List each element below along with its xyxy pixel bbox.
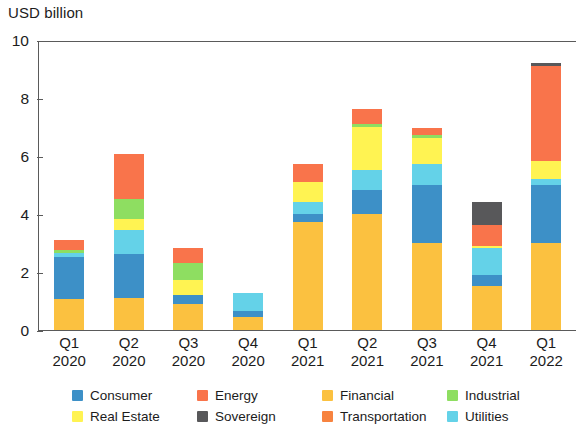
bar-segment[interactable] (412, 128, 442, 135)
bar-stack[interactable] (531, 63, 561, 330)
bar-segment[interactable] (173, 263, 203, 280)
bar-segment[interactable] (293, 164, 323, 181)
bar-stack[interactable] (352, 109, 382, 329)
bar-segment[interactable] (472, 202, 502, 225)
bar-segment[interactable] (173, 248, 203, 263)
bar-slot (159, 41, 219, 330)
bar-segment[interactable] (472, 286, 502, 330)
bar-segment[interactable] (173, 304, 203, 330)
bar-stack[interactable] (472, 202, 502, 330)
legend-label: Utilities (465, 409, 509, 424)
bar-segment[interactable] (114, 230, 144, 255)
x-axis-year: 2020 (159, 352, 219, 370)
x-axis-quarter: Q3 (397, 334, 457, 352)
bar-segment[interactable] (531, 161, 561, 178)
bar-segment[interactable] (114, 254, 144, 298)
bar-slot (218, 41, 278, 330)
x-axis-year: 2020 (99, 352, 159, 370)
legend-swatch (197, 390, 208, 401)
y-axis-tick-label: 8 (20, 90, 29, 108)
legend-label: Industrial (465, 388, 520, 403)
bar-segment[interactable] (114, 219, 144, 229)
bar-segment[interactable] (531, 243, 561, 330)
legend-item[interactable]: Consumer (72, 388, 197, 403)
x-axis-tick-label: Q42021 (457, 334, 517, 369)
legend-label: Sovereign (215, 409, 276, 424)
x-axis-quarter: Q2 (99, 334, 159, 352)
legend-label: Transportation (340, 409, 427, 424)
bar-slot (278, 41, 338, 330)
bar-segment[interactable] (54, 240, 84, 250)
x-axis-year: 2021 (278, 352, 338, 370)
bar-segment[interactable] (352, 109, 382, 124)
y-axis-tick-mark (37, 331, 43, 332)
bar-segment[interactable] (352, 190, 382, 213)
legend-label: Real Estate (90, 409, 160, 424)
plot-area: 0246810 (38, 41, 576, 331)
bar-segment[interactable] (412, 243, 442, 330)
y-axis-tick-label: 6 (20, 148, 29, 166)
legend-item[interactable]: Energy (197, 388, 322, 403)
bar-segment[interactable] (173, 295, 203, 304)
legend-item[interactable]: Utilities (447, 409, 572, 424)
legend-item[interactable]: Financial (322, 388, 447, 403)
bar-slot (457, 41, 517, 330)
bar-stack[interactable] (293, 164, 323, 329)
bar-segment[interactable] (531, 66, 561, 162)
x-axis-year: 2021 (338, 352, 398, 370)
bar-slot (397, 41, 457, 330)
bar-stack[interactable] (54, 240, 84, 330)
legend-item[interactable]: Sovereign (197, 409, 322, 424)
bar-segment[interactable] (293, 222, 323, 329)
bar-slot (338, 41, 398, 330)
legend-swatch (322, 411, 333, 422)
chart-legend: ConsumerEnergyFinancialIndustrialReal Es… (72, 388, 572, 424)
legend-item[interactable]: Transportation (322, 409, 447, 424)
bar-segment[interactable] (233, 317, 263, 330)
bar-segment[interactable] (412, 164, 442, 184)
bar-stack[interactable] (412, 128, 442, 330)
stacked-bar-chart: USD billion 0246810 Q12020Q22020Q32020Q4… (0, 0, 578, 428)
bar-slot (39, 41, 99, 330)
bar-stack[interactable] (173, 248, 203, 329)
bar-segment[interactable] (114, 199, 144, 219)
bar-stack[interactable] (114, 154, 144, 329)
bar-segment[interactable] (114, 298, 144, 330)
bar-segment[interactable] (173, 280, 203, 295)
bar-segment[interactable] (472, 275, 502, 287)
bar-segment[interactable] (412, 138, 442, 164)
y-axis-tick-label: 10 (12, 32, 29, 50)
bar-segment[interactable] (472, 225, 502, 245)
bar-segment[interactable] (352, 214, 382, 330)
bar-segment[interactable] (54, 299, 84, 329)
x-axis-year: 2021 (457, 352, 517, 370)
bar-segment[interactable] (352, 127, 382, 171)
legend-label: Energy (215, 388, 258, 403)
bar-segment[interactable] (352, 170, 382, 190)
legend-swatch (197, 411, 208, 422)
bar-stack[interactable] (233, 293, 263, 329)
bar-segment[interactable] (293, 202, 323, 214)
x-axis-quarter: Q4 (457, 334, 517, 352)
x-axis-tick-label: Q22021 (338, 334, 398, 369)
y-axis-title: USD billion (8, 4, 83, 21)
bar-segment[interactable] (114, 154, 144, 199)
legend-label: Consumer (90, 388, 152, 403)
x-axis-quarter: Q2 (338, 334, 398, 352)
x-axis-tick-label: Q12020 (39, 334, 99, 369)
bar-segment[interactable] (531, 185, 561, 243)
x-axis-year: 2021 (397, 352, 457, 370)
bar-segment[interactable] (54, 257, 84, 299)
legend-swatch (72, 411, 83, 422)
legend-swatch (322, 390, 333, 401)
bar-segment[interactable] (233, 293, 263, 310)
x-axis-quarter: Q3 (159, 334, 219, 352)
legend-item[interactable]: Industrial (447, 388, 572, 403)
legend-item[interactable]: Real Estate (72, 409, 197, 424)
x-axis-quarter: Q4 (218, 334, 278, 352)
legend-swatch (447, 411, 458, 422)
bar-segment[interactable] (293, 182, 323, 202)
bar-segment[interactable] (293, 214, 323, 223)
bar-segment[interactable] (412, 185, 442, 243)
bar-segment[interactable] (472, 248, 502, 274)
